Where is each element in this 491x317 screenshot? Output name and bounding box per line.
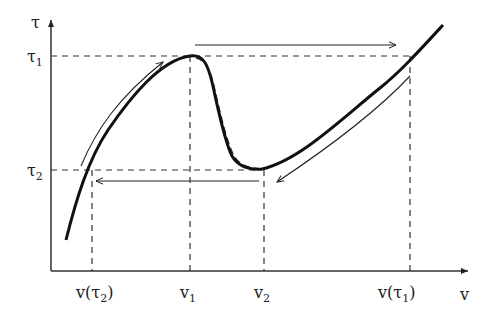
arrows bbox=[81, 45, 410, 182]
v-tau1-before: v(τ bbox=[377, 283, 402, 302]
tau2-base: τ bbox=[27, 161, 36, 180]
tau1-label: τ1 bbox=[27, 47, 43, 69]
v-tau2-label: v(τ2) bbox=[75, 283, 113, 305]
v1-base: v bbox=[179, 283, 189, 302]
v-tau2-sub: 2 bbox=[100, 292, 107, 305]
v-tau1-label: v(τ1) bbox=[377, 283, 415, 305]
v-tau2-before: v(τ bbox=[75, 283, 100, 302]
v-tau1-after: ) bbox=[409, 283, 415, 302]
v1-label: v1 bbox=[179, 283, 196, 305]
tau2-label: τ2 bbox=[27, 161, 43, 183]
tau1-sub: 1 bbox=[36, 56, 43, 69]
v2-label: v2 bbox=[253, 283, 270, 305]
axes bbox=[51, 20, 468, 271]
v2-sub: 2 bbox=[263, 292, 270, 305]
v1-sub: 1 bbox=[189, 292, 196, 305]
guide-lines bbox=[51, 56, 410, 271]
x-axis-label: v bbox=[459, 285, 469, 304]
tau2-sub: 2 bbox=[36, 170, 43, 183]
arrow-down-right-branch bbox=[277, 76, 410, 182]
tau1-base: τ bbox=[27, 47, 36, 66]
y-axis-label: τ bbox=[31, 13, 40, 32]
v2-base: v bbox=[253, 283, 263, 302]
main-curve bbox=[66, 25, 443, 240]
v-tau1-sub: 1 bbox=[402, 292, 409, 305]
hysteresis-diagram: τ v τ1 τ2 v(τ2) v1 v2 v(τ1) bbox=[0, 0, 491, 317]
v-tau2-after: ) bbox=[107, 283, 113, 302]
